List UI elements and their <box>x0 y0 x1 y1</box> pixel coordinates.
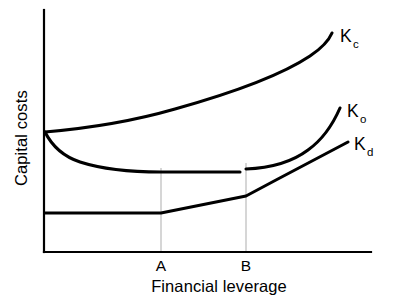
series-label-ko-subscript: o <box>360 113 366 125</box>
series-line-ko-ascending <box>246 108 340 169</box>
series-line-ko-descending <box>45 132 240 172</box>
capital-structure-chart: Capital costs Financial leverage A B K c… <box>0 0 404 308</box>
series-label-kd: K d <box>354 134 373 158</box>
series-label-kc-subscript: c <box>353 38 359 50</box>
x-tick-label-a: A <box>156 257 167 274</box>
chart-canvas: Capital costs Financial leverage A B K c… <box>0 0 404 308</box>
series-line-kc <box>45 33 332 132</box>
series-label-ko: K o <box>347 101 366 125</box>
series-label-kc: K c <box>340 26 359 50</box>
x-axis-label: Financial leverage <box>151 277 287 295</box>
series-label-kd-base: K <box>354 134 366 154</box>
series-label-kd-subscript: d <box>367 146 373 158</box>
series-label-kc-base: K <box>340 26 352 46</box>
x-tick-label-b: B <box>241 257 251 274</box>
series-label-ko-base: K <box>347 101 359 121</box>
y-axis-label: Capital costs <box>12 90 30 186</box>
